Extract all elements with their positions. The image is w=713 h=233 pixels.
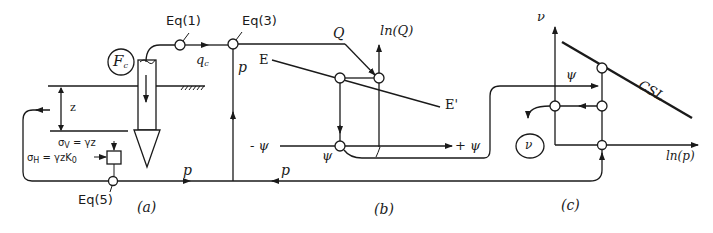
cone-penetrometer-shaft: [138, 60, 156, 130]
caption-a: (a): [137, 200, 156, 214]
nu-output-label: ν: [525, 139, 532, 151]
e-label: E: [259, 53, 269, 66]
caption-b: (b): [374, 202, 394, 216]
nu-axis-node: [550, 101, 560, 111]
sigma-h-label: σH = γzK0: [27, 153, 77, 165]
csl-node: [597, 63, 607, 73]
e-intersection-node: [335, 73, 345, 83]
lnq-axis-label: ln(Q): [380, 24, 413, 37]
eq5-node: [109, 177, 118, 186]
lnp-node: [598, 141, 607, 150]
eq3-node: [228, 39, 238, 49]
p-label-b: p: [281, 163, 290, 177]
e-prime-label: E': [445, 98, 458, 111]
stress-input-box: [107, 151, 121, 164]
e-line: [272, 60, 440, 107]
lnp-axis-label: ln(p): [666, 150, 695, 162]
eq1-node: [175, 40, 185, 50]
caption-c: (c): [561, 198, 580, 212]
q-label: Q: [333, 26, 344, 40]
p-label-a: p: [183, 163, 192, 177]
sigma-v-label: σV = γz: [58, 138, 96, 150]
eq1-label: Eq(1): [166, 14, 201, 27]
psi-label-b: ψ: [322, 149, 332, 162]
psi-label-c: ψ: [566, 68, 576, 81]
psi-node: [335, 141, 345, 151]
neg-psi-label: - ψ: [250, 139, 269, 152]
eq3-label: Eq(3): [242, 14, 277, 27]
nu-axis-label: ν: [537, 10, 545, 23]
eq5-label: Eq(5): [78, 193, 113, 206]
nu-transfer-node: [597, 101, 607, 111]
depth-z-label: z: [70, 102, 76, 113]
p-vertical-label: p: [238, 60, 247, 74]
pos-psi-label: + ψ: [455, 139, 480, 152]
lnq-node: [374, 73, 384, 83]
qc-label: qc: [196, 53, 209, 68]
force-fc-label: Fc: [113, 54, 128, 70]
cone-tip-icon: [134, 130, 160, 167]
